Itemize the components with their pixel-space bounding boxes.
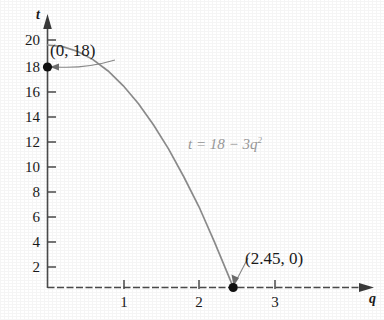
x-tick-label-2: 2 [187,295,211,310]
data-point-marker-y-intercept [43,62,52,71]
y-tick-label-16: 16 [14,85,40,100]
y-tick-label-20: 20 [14,33,40,48]
y-tick-label-4: 4 [14,235,40,250]
x-intercept-label: (2.45, 0) [245,250,303,267]
y-intercept-label: (0, 18) [50,42,95,59]
x-tick-label-1: 1 [112,295,136,310]
y-tick-label-18: 18 [14,60,40,75]
y-tick-label-2: 2 [14,260,40,275]
y-tick-label-14: 14 [14,110,40,125]
figure-canvas: 20 18 16 14 12 10 8 6 4 2 1 2 3 t q (0, … [0,0,384,320]
y-tick-label-6: 6 [14,210,40,225]
curve-equation-label: t = 18 − 3q2 [188,136,262,152]
y-tick-label-12: 12 [14,135,40,150]
curve-equation-text: t = 18 − 3q [188,136,257,152]
y-intercept-leader-line [56,60,115,67]
y-tick-label-8: 8 [14,185,40,200]
x-tick-label-3: 3 [263,295,287,310]
x-axis-label: q [369,292,376,306]
curve-path [48,45,234,288]
y-axis-label: t [36,8,40,22]
y-tick-label-10: 10 [14,160,40,175]
y-axis-ticks [48,40,57,267]
y-axis-arrowhead [43,14,52,29]
curve-equation-exponent: 2 [257,135,262,145]
data-point-marker-x-intercept [229,283,238,292]
